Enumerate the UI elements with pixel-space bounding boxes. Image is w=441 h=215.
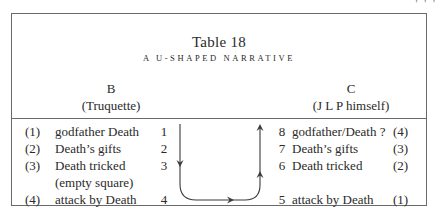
right-row-index: (1) bbox=[393, 192, 419, 207]
right-row-number: 5 bbox=[277, 192, 287, 207]
left-row-number: 4 bbox=[158, 192, 170, 207]
left-row-text: godfather Death bbox=[55, 124, 139, 139]
left-row-number: 1 bbox=[158, 124, 170, 139]
column-letter: B bbox=[48, 80, 174, 97]
column-header-c: C (J L P himself) bbox=[288, 80, 414, 114]
header-divider bbox=[12, 118, 426, 119]
column-attribution: (Truquette) bbox=[48, 97, 174, 114]
table-frame: Table 18 A U-SHAPED NARRATIVE B (Truquet… bbox=[11, 13, 427, 206]
column-header-b: B (Truquette) bbox=[48, 80, 174, 114]
right-row-text: Death tricked bbox=[292, 158, 362, 173]
table-title: Table 18 bbox=[12, 34, 426, 51]
left-row-index: (4) bbox=[25, 192, 51, 207]
right-row-number: 8 bbox=[277, 124, 287, 139]
page-number-fragment: ' ' ' bbox=[416, 0, 437, 9]
right-row-text: Death’s gifts bbox=[292, 141, 358, 156]
right-row-index: (3) bbox=[393, 141, 419, 156]
right-row-text: attack by Death bbox=[292, 192, 374, 207]
column-letter: C bbox=[288, 80, 414, 97]
right-row-index: (4) bbox=[393, 124, 419, 139]
left-row-index: (2) bbox=[25, 141, 51, 156]
left-row-text: attack by Death bbox=[55, 192, 137, 207]
left-row-text: Death tricked bbox=[55, 158, 125, 173]
left-row-text: Death’s gifts bbox=[55, 141, 121, 156]
left-row-number: 3 bbox=[158, 158, 170, 173]
left-row-number: 2 bbox=[158, 141, 170, 156]
right-row-number: 6 bbox=[277, 158, 287, 173]
left-row-index: (1) bbox=[25, 124, 51, 139]
right-row-number: 7 bbox=[277, 141, 287, 156]
column-attribution: (J L P himself) bbox=[288, 97, 414, 114]
right-row-index: (2) bbox=[393, 158, 419, 173]
table-subtitle: A U-SHAPED NARRATIVE bbox=[12, 53, 426, 63]
left-row-text: (empty square) bbox=[55, 175, 133, 190]
left-row-index: (3) bbox=[25, 158, 51, 173]
right-row-text: godfather/Death ? bbox=[292, 124, 385, 139]
